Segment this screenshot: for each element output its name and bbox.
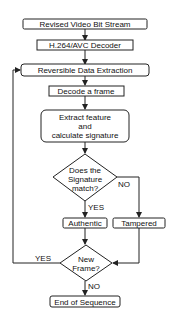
label-newframe-1: New: [78, 255, 94, 264]
label-extract-2: and: [78, 122, 91, 131]
arrow-newframe-loop: [13, 70, 60, 263]
label-extract-1: Extract feature: [59, 113, 112, 122]
label-input: Revised Video Bit Stream: [39, 20, 130, 29]
label-authentic: Authentic: [68, 219, 101, 228]
flowchart: Revised Video Bit Stream H.264/AVC Decod…: [0, 0, 174, 324]
label-tampered: Tampered: [121, 219, 157, 228]
label-extraction: Reversible Data Extraction: [38, 66, 133, 75]
label-match-3: match?: [72, 184, 99, 193]
label-match-yes: YES: [88, 203, 104, 212]
label-end: End of Sequence: [54, 298, 116, 307]
label-match-2: Signature: [68, 175, 103, 184]
arrow-tampered-newframe: [113, 228, 139, 263]
label-newframe-no: NO: [88, 282, 100, 291]
label-extract-3: calculate signature: [52, 131, 119, 140]
label-decoder: H.264/AVC Decoder: [49, 41, 121, 50]
label-newframe-2: Frame?: [72, 264, 100, 273]
label-match-no: NO: [118, 180, 130, 189]
label-match-1: Does the: [69, 166, 102, 175]
label-newframe-yes: YES: [35, 254, 51, 263]
label-decode-frame: Decode a frame: [58, 87, 115, 96]
